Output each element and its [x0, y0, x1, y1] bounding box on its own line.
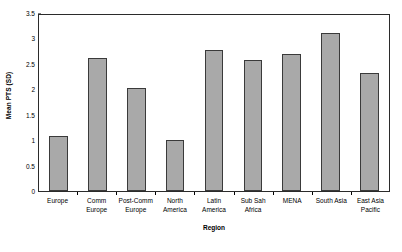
x-axis-tick-label: South Asia [312, 197, 351, 227]
plot-area [38, 14, 390, 192]
y-axis-tick-label: 1.5 [26, 112, 35, 119]
bar-chart: Mean PTS (SD) 00.511.522.533.5 EuropeCom… [0, 0, 402, 252]
x-axis-tick-label: Post-Comm Europe [116, 197, 155, 227]
x-axis-tick-marks [38, 192, 390, 196]
bar-slot [311, 15, 350, 191]
x-axis-tick-label: MENA [273, 197, 312, 227]
x-axis-tick-mark [77, 192, 78, 195]
x-axis-tick-mark [273, 192, 274, 195]
bar [166, 140, 185, 191]
y-axis-tick-label: 3.5 [26, 11, 35, 18]
x-axis-tick-mark [155, 192, 156, 195]
x-axis-tick-label: North America [155, 197, 194, 227]
y-axis-tick-labels: 00.511.522.533.5 [16, 14, 38, 192]
x-axis-tick-labels: EuropeComm EuropePost-Comm EuropeNorth A… [38, 197, 390, 227]
x-axis-tick-label: Latin America [194, 197, 233, 227]
bar [282, 54, 301, 191]
y-axis-tick-label: 2 [31, 87, 35, 94]
bar-slot [233, 15, 272, 191]
y-axis-tick-label: 0.5 [26, 163, 35, 170]
bar-slot [39, 15, 78, 191]
bar-slot [195, 15, 234, 191]
bar-slot [156, 15, 195, 191]
y-axis-tick-label: 3 [31, 36, 35, 43]
bar-slot [350, 15, 389, 191]
x-axis-tick-label: Sub Sah Africa [234, 197, 273, 227]
y-axis-tick-label: 2.5 [26, 62, 35, 69]
bars-layer [39, 15, 389, 191]
y-axis-title-text: Mean PTS (SD) [6, 71, 13, 119]
x-axis-tick-label: Europe [38, 197, 77, 227]
bar [360, 73, 379, 191]
x-axis-tick-label: East Asia Pacific [351, 197, 390, 227]
bar [321, 33, 340, 191]
x-axis-tick-mark [234, 192, 235, 195]
bar-slot [272, 15, 311, 191]
bar-slot [78, 15, 117, 191]
x-axis-tick-mark [194, 192, 195, 195]
x-axis-tick-label: Comm Europe [77, 197, 116, 227]
bar [127, 88, 146, 191]
x-axis-tick-mark [312, 192, 313, 195]
y-axis-tick-label: 0 [31, 189, 35, 196]
bar [244, 60, 263, 191]
x-axis-tick-mark [351, 192, 352, 195]
x-axis-tick-mark [116, 192, 117, 195]
bar [205, 50, 224, 191]
x-axis-title: Region [38, 224, 390, 231]
bar-slot [117, 15, 156, 191]
bar [49, 136, 68, 191]
bar [88, 58, 107, 191]
y-axis-tick-label: 1 [31, 138, 35, 145]
